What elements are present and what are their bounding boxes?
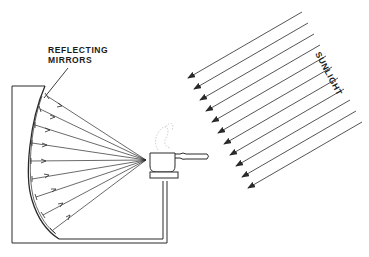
reflected-rays xyxy=(31,96,146,230)
solar-cooker-diagram xyxy=(0,0,369,257)
parabolic-frame xyxy=(12,86,167,243)
mirror-label-pointer xyxy=(44,68,68,98)
sunlight-rays xyxy=(188,12,362,188)
steam-icon xyxy=(155,123,172,150)
pot-stand xyxy=(150,172,178,178)
cooking-pot xyxy=(150,153,209,172)
